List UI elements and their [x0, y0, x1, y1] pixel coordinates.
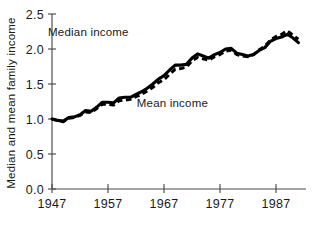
- y-axis-title: Median and mean family income: [5, 17, 17, 188]
- y-tick-label: 1.5: [26, 78, 44, 92]
- y-tick-label: 1.0: [26, 113, 44, 127]
- y-tick-label: 0.5: [26, 148, 44, 162]
- x-tick-label: 1957: [93, 197, 122, 211]
- x-tick-label: 1947: [37, 197, 66, 211]
- y-tick-label: 2.0: [26, 43, 44, 57]
- y-tick-label: 2.5: [26, 8, 44, 22]
- x-tick-label: 1977: [205, 197, 234, 211]
- median-income-label: Median income: [48, 26, 129, 38]
- mean-income-label: Mean income: [137, 97, 208, 109]
- x-tick-label: 1967: [149, 197, 178, 211]
- x-axis-group: 19471957196719771987: [37, 184, 306, 211]
- x-axis-tick-labels: 19471957196719771987: [37, 197, 290, 211]
- chart-container: 0.00.51.01.52.02.5 19471957196719771987 …: [0, 0, 315, 226]
- y-axis-tick-labels: 0.00.51.01.52.02.5: [26, 8, 44, 197]
- income-line-chart: 0.00.51.01.52.02.5 19471957196719771987 …: [0, 0, 315, 226]
- y-tick-label: 0.0: [26, 183, 44, 197]
- x-tick-label: 1987: [261, 197, 290, 211]
